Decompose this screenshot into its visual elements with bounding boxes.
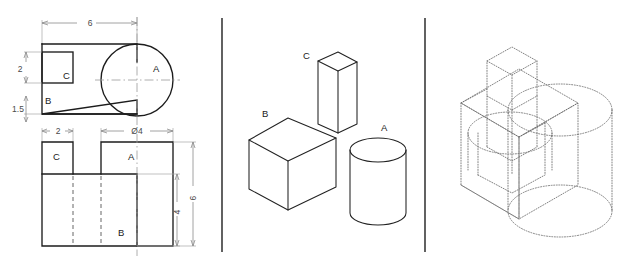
label-front-view-part-b: B xyxy=(118,227,124,238)
label-cylinder-a: A xyxy=(381,122,388,133)
label-front-view-part-c: C xyxy=(53,151,60,162)
label-dim-width-overall: 6 xyxy=(88,18,93,28)
label-dim-diameter-a: Ø4 xyxy=(131,126,143,136)
technical-drawing-figure: 6 2 1.5 C B A 2 Ø4 C A B 6 4 C B A xyxy=(0,0,639,263)
label-layer: 6 2 1.5 C B A 2 Ø4 C A B 6 4 C B A xyxy=(0,0,639,263)
label-dim-height-upper: 2 xyxy=(18,64,23,74)
label-front-view-part-a: A xyxy=(128,151,135,162)
label-box-b: B xyxy=(262,108,268,119)
label-dim-height-inner: 4 xyxy=(172,209,182,214)
label-top-view-part-a: A xyxy=(153,63,160,74)
label-top-view-part-b: B xyxy=(45,95,51,106)
label-dim-height-lower: 1.5 xyxy=(12,104,24,114)
label-prism-c: C xyxy=(303,50,310,61)
label-dim-width-c: 2 xyxy=(56,126,61,136)
label-dim-height-overall: 6 xyxy=(188,195,198,200)
label-top-view-part-c: C xyxy=(63,70,70,81)
